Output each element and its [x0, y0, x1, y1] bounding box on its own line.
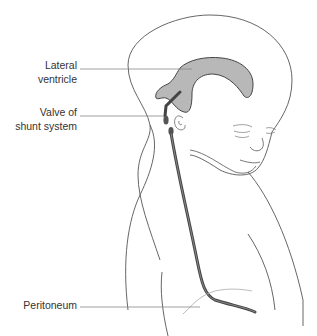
label-lateral-ventricle: Lateral ventricle: [38, 58, 77, 86]
nose: [250, 138, 263, 151]
label-valve-of-shunt-system: Valve of shunt system: [15, 105, 77, 133]
closed-eye: [233, 125, 252, 138]
chest-outline: [248, 172, 303, 326]
back-outline: [126, 125, 155, 310]
far-eye: [266, 128, 276, 134]
shunt-valve: [163, 116, 168, 125]
head-outline: [128, 15, 292, 260]
left-body-outline: [161, 272, 168, 336]
arm-outline: [248, 234, 275, 310]
label-peritoneum: Peritoneum: [23, 298, 77, 312]
mouth: [240, 160, 260, 163]
ear: [175, 116, 186, 130]
lateral-ventricle: [156, 57, 253, 112]
shunt-diagram: [0, 0, 317, 336]
